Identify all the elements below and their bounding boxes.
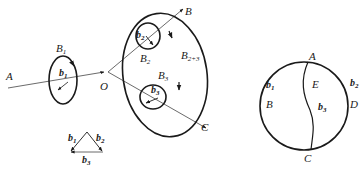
label-circle-d: D [349,98,358,110]
label-circle-a: A [308,50,316,62]
label-B3: B3 [158,69,169,83]
label-B1: B1 [56,42,66,56]
b3-arrow-icon [146,98,158,103]
label-B2: B2 [140,52,151,66]
line-a-to-o [8,72,104,88]
loop-b23-arrow-icon-top [169,31,172,38]
label-B23: B2+3 [181,49,200,63]
label-circle-b3: b3 [318,101,327,114]
label-circle-b: B [266,98,273,110]
label-b: B [185,5,192,17]
label-circle-e: E [311,78,319,90]
label-o: O [100,80,108,92]
b1-arrow-icon [58,82,68,90]
label-tri-b3: b3 [82,154,91,167]
label-circle-c: C [304,152,312,164]
loop-diagram: A O B C B1 b1 b2 B2 B3 b3 B2+3 b1 b2 b3 … [0,0,360,170]
label-a: A [5,70,13,82]
label-circle-b2: b2 [350,77,359,90]
label-tri-b1: b1 [68,132,77,145]
label-circle-b1: b1 [266,79,275,92]
label-b1: b1 [59,67,68,80]
left-figure: A O B C B1 b1 b2 B2 B3 b3 B2+3 [5,5,215,142]
vector-triangle: b1 b2 b3 [68,132,105,167]
label-tri-b2: b2 [96,132,105,145]
label-c: C [201,121,209,133]
circle-graph: A E B D C b1 b2 b3 [260,50,359,164]
chord-a-e-c [303,62,313,150]
